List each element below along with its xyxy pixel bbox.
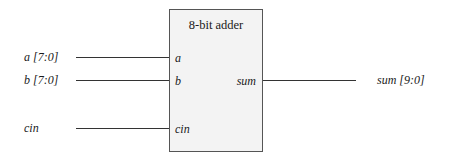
signal-b-label: b [7:0] (24, 73, 58, 87)
wire-b (76, 80, 169, 81)
signal-sum-label: sum [9:0] (377, 73, 425, 87)
signal-cin-label: cin (24, 121, 39, 135)
wire-cin (76, 128, 169, 129)
adder-block: 8-bit adder a b cin sum (169, 9, 263, 152)
wire-a (76, 57, 169, 58)
port-b-label: b (175, 74, 181, 88)
wire-sum (263, 80, 356, 81)
signal-a-label: a [7:0] (24, 50, 58, 64)
port-a-label: a (175, 51, 181, 65)
port-cin-label: cin (175, 122, 190, 136)
block-title: 8-bit adder (170, 18, 262, 33)
port-sum-label: sum (237, 74, 256, 88)
